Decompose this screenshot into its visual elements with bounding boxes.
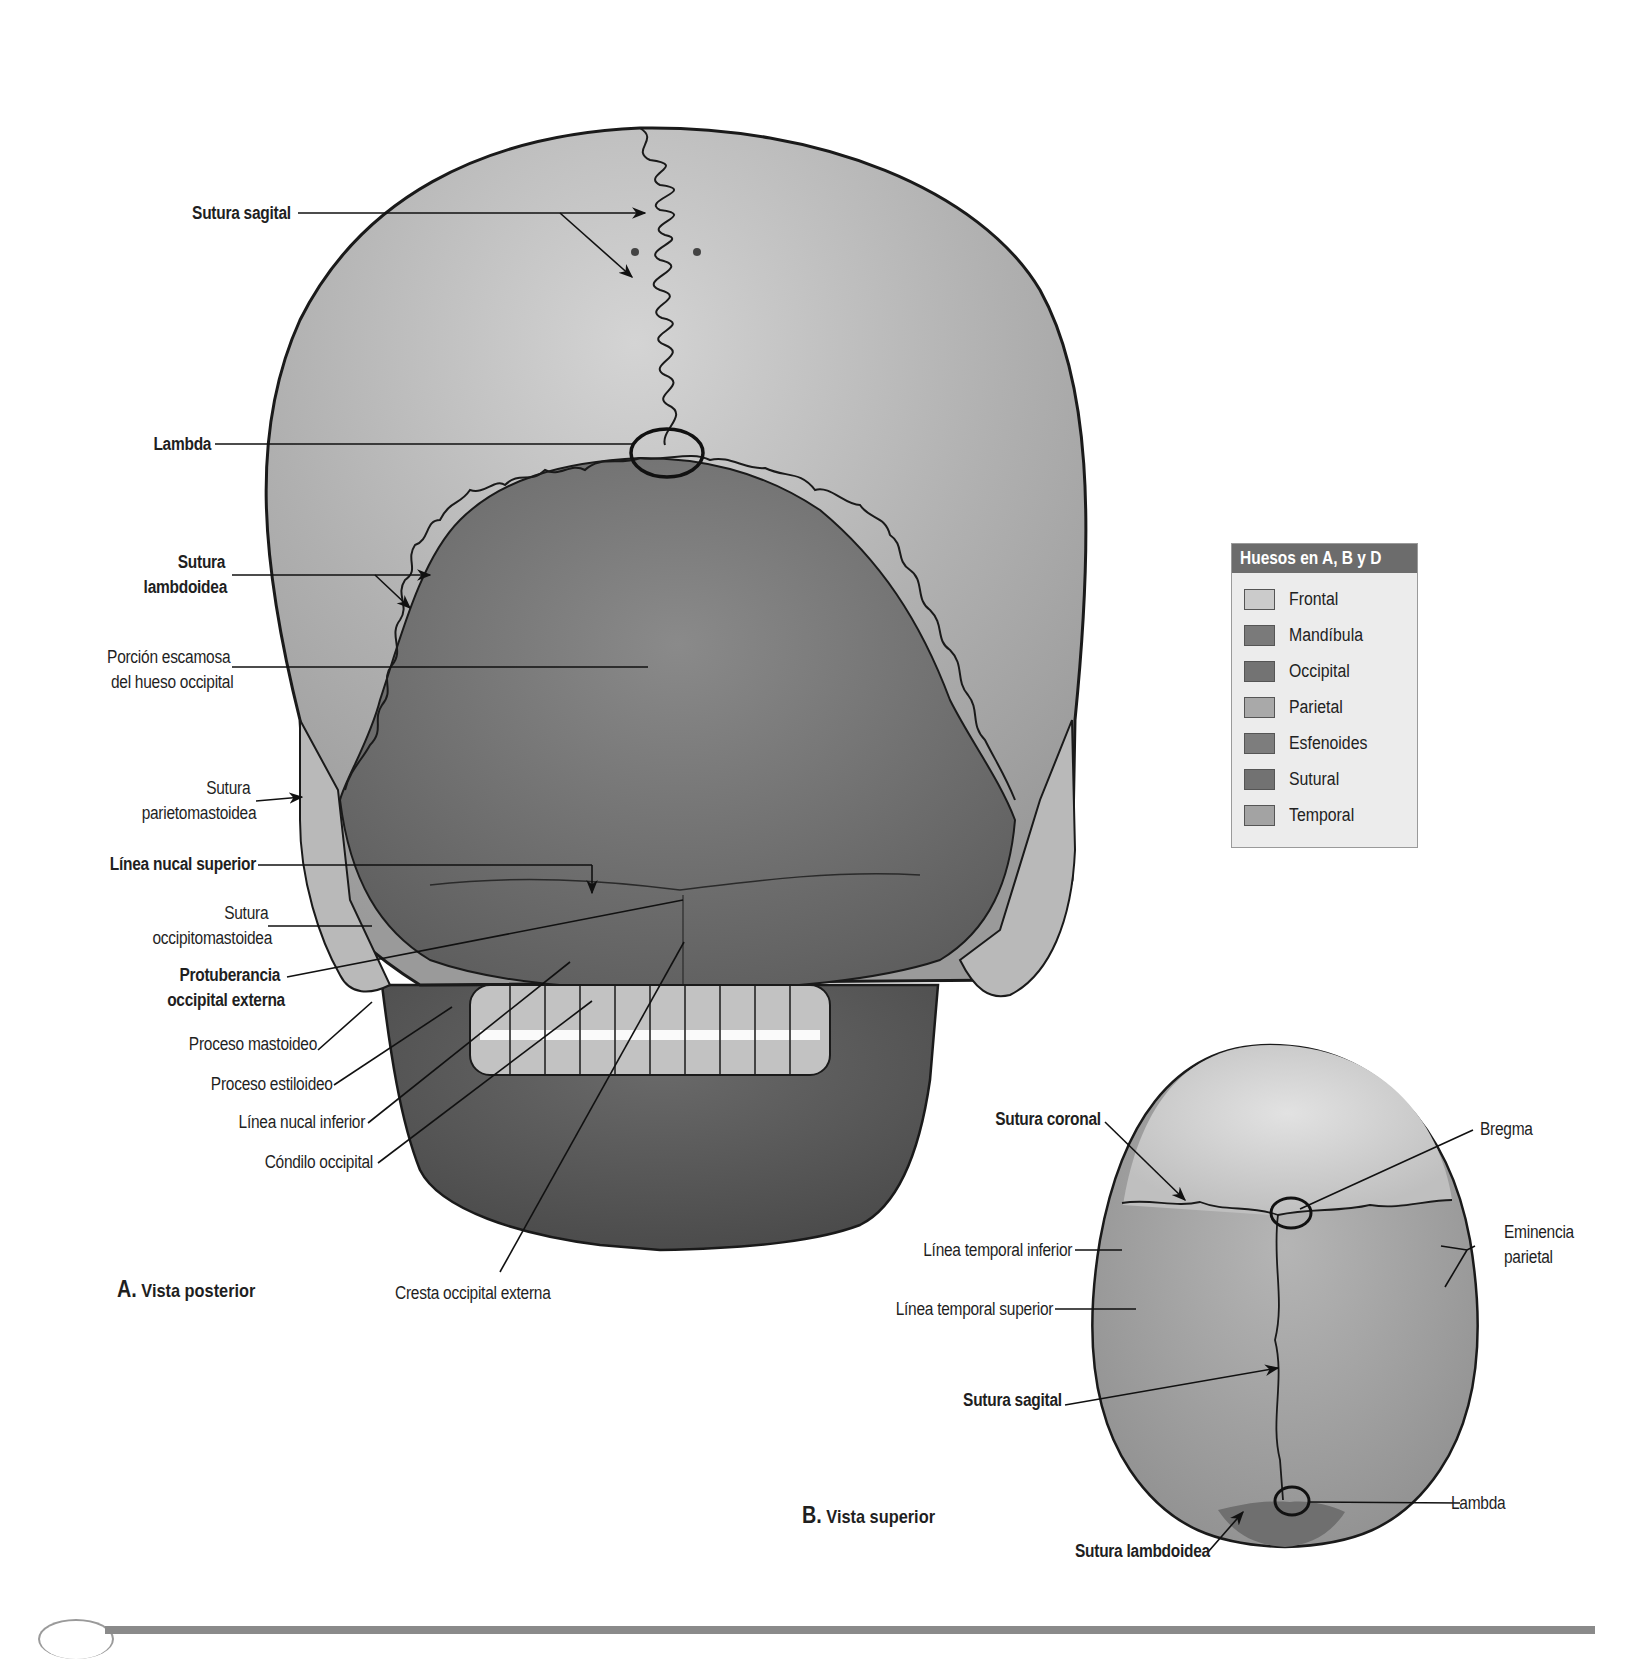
label-sutura-sagital: Sutura sagital	[192, 201, 291, 226]
superior-skull	[1092, 1045, 1478, 1547]
label-porcion-escamosa-line1: Porción escamosa	[107, 645, 230, 670]
label-sutura-occipitomastoidea-line2: occipitomastoidea	[152, 926, 272, 951]
label-sutura-coronal: Sutura coronal	[995, 1107, 1101, 1132]
legend-swatch	[1244, 625, 1275, 646]
label-proceso-estiloideo: Proceso estiloideo	[211, 1072, 333, 1097]
legend-title: Huesos en A, B y D	[1232, 544, 1417, 573]
legend-item-temporal: Temporal	[1244, 802, 1363, 828]
legend-item-occipital: Occipital	[1244, 658, 1358, 684]
legend-item-frontal: Frontal	[1244, 586, 1345, 612]
label-eminencia-parietal-line1: Eminencia	[1504, 1220, 1574, 1245]
label-condilo-occipital: Cóndilo occipital	[265, 1150, 373, 1175]
label-linea-nucal-superior: Línea nucal superior	[110, 852, 256, 877]
frontal-bone-b	[1123, 1045, 1452, 1215]
label-sutura-parietomastoidea-line2: parietomastoidea	[141, 801, 256, 826]
label-sutura-lambdoidea-b: Sutura lambdoidea	[1075, 1539, 1210, 1564]
label-sutura-parietomastoidea-line1: Sutura	[206, 776, 250, 801]
posterior-skull	[266, 128, 1086, 1250]
legend-swatch	[1244, 661, 1275, 682]
label-sutura-sagital-b: Sutura sagital	[963, 1388, 1062, 1413]
label-cresta-occipital-externa: Cresta occipital externa	[395, 1281, 551, 1306]
label-linea-temporal-inferior: Línea temporal inferior	[923, 1238, 1072, 1263]
view-name-superior: Vista superior	[826, 1506, 935, 1527]
label-protuberancia-line1: Protuberancia	[179, 963, 280, 988]
legend-item-mandibula: Mandíbula	[1244, 622, 1373, 648]
label-protuberancia-line2: occipital externa	[167, 988, 285, 1013]
label-sutura-lambdoidea-line1: Sutura	[178, 550, 225, 575]
view-title-superior: B. Vista superior	[802, 1502, 935, 1529]
label-lambda: Lambda	[153, 432, 211, 457]
label-linea-temporal-superior: Línea temporal superior	[895, 1297, 1053, 1322]
legend-swatch	[1244, 697, 1275, 718]
legend-item-esfenoides: Esfenoides	[1244, 730, 1378, 756]
bones-legend: Huesos en A, B y D Frontal Mandíbula Occ…	[1231, 543, 1418, 848]
view-title-posterior: A. Vista posterior	[117, 1276, 255, 1303]
legend-swatch	[1244, 769, 1275, 790]
legend-item-sutural: Sutural	[1244, 766, 1346, 792]
label-porcion-escamosa-line2: del hueso occipital	[111, 670, 233, 695]
view-letter-b: B.	[802, 1502, 822, 1528]
label-proceso-mastoideo: Proceso mastoideo	[189, 1032, 317, 1057]
footer-arc-decoration	[38, 1619, 114, 1659]
legend-swatch	[1244, 733, 1275, 754]
legend-swatch	[1244, 805, 1275, 826]
legend-swatch	[1244, 589, 1275, 610]
view-name-posterior: Vista posterior	[141, 1280, 255, 1301]
footer-bar-decoration	[105, 1626, 1595, 1634]
label-eminencia-parietal-line2: parietal	[1504, 1245, 1553, 1270]
view-letter-a: A.	[117, 1276, 137, 1302]
label-sutura-occipitomastoidea-line1: Sutura	[224, 901, 268, 926]
label-linea-nucal-inferior: Línea nucal inferior	[238, 1110, 365, 1135]
label-bregma: Bregma	[1480, 1117, 1533, 1142]
legend-item-parietal: Parietal	[1244, 694, 1350, 720]
label-lambda-b: Lambda	[1451, 1491, 1505, 1516]
label-sutura-lambdoidea-line2: lambdoidea	[144, 575, 227, 600]
